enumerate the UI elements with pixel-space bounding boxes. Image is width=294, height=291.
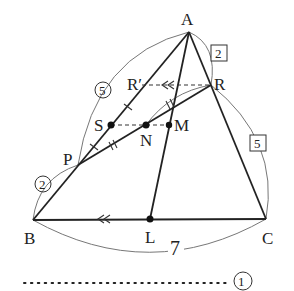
label-M: M bbox=[174, 116, 189, 135]
ratio-AP-circled: 5 bbox=[95, 82, 111, 98]
label-A: A bbox=[181, 10, 194, 29]
footer-circled-number: 1 bbox=[234, 272, 252, 290]
point-S bbox=[108, 122, 115, 129]
svg-text:7: 7 bbox=[170, 237, 180, 259]
label-R: R bbox=[214, 75, 226, 94]
label-L: L bbox=[145, 228, 155, 247]
svg-text:2: 2 bbox=[39, 177, 46, 192]
point-N bbox=[143, 122, 150, 129]
svg-text:5: 5 bbox=[254, 136, 261, 151]
label-S: S bbox=[94, 116, 103, 135]
ratio-PB-circled: 2 bbox=[35, 176, 51, 192]
label-B: B bbox=[24, 229, 35, 248]
svg-text:1: 1 bbox=[238, 274, 245, 289]
triangle-diagram: A B C R R′ S N M P L 5 2 2 5 7 1 bbox=[0, 0, 294, 291]
label-N: N bbox=[140, 131, 152, 150]
svg-text:2: 2 bbox=[215, 46, 222, 61]
ratio-AR-boxed: 2 bbox=[211, 45, 227, 61]
point-L bbox=[147, 216, 154, 223]
svg-text:5: 5 bbox=[99, 83, 106, 98]
label-C: C bbox=[262, 229, 273, 248]
ratio-RC-boxed: 5 bbox=[250, 135, 266, 151]
label-P: P bbox=[63, 150, 72, 169]
label-R-prime: R′ bbox=[127, 75, 142, 94]
ratio-BC: 7 bbox=[168, 237, 184, 259]
point-M bbox=[166, 122, 172, 128]
